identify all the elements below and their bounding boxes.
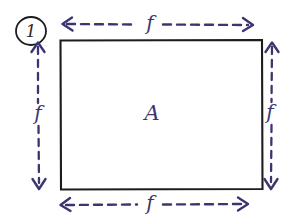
force-arrow-top-shaft-left <box>67 24 136 25</box>
force-arrow-left-shaft-lower <box>39 126 40 183</box>
force-arrow-top-label: f <box>144 11 157 35</box>
problem-number-badge: 1 <box>16 17 46 45</box>
force-arrow-bottom-shaft-right <box>163 204 243 205</box>
problem-number-text: 1 <box>26 21 37 41</box>
diagram-svg: 1 A f f f <box>0 0 295 223</box>
force-arrow-top: f <box>63 11 254 35</box>
rectangle-outline <box>61 40 263 190</box>
body-rectangle <box>61 40 263 190</box>
force-arrow-bottom: f <box>61 191 249 215</box>
force-arrow-right-label: f <box>264 100 277 124</box>
force-arrow-right: f <box>264 43 278 190</box>
body-label-a: A <box>142 101 159 125</box>
force-arrow-left: f <box>32 43 46 190</box>
handwritten-diagram-canvas: 1 A f f f <box>0 0 295 223</box>
force-arrow-top-shaft-right <box>163 25 248 26</box>
force-arrow-bottom-shaft-left <box>66 205 137 206</box>
force-arrow-right-shaft-lower <box>271 125 272 182</box>
force-arrow-left-label: f <box>32 101 45 125</box>
force-arrow-bottom-label: f <box>144 191 157 215</box>
force-arrow-right-shaft-upper <box>272 47 273 102</box>
